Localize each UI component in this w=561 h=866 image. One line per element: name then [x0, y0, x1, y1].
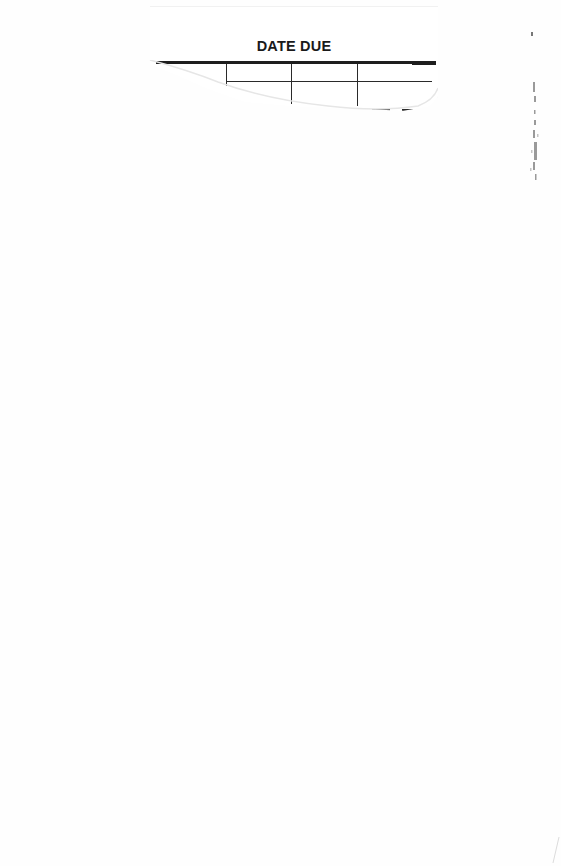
slip-header-rule-end: [412, 62, 436, 65]
slip-title: DATE DUE: [150, 38, 438, 54]
date-due-slip: DATE DUE: [150, 6, 438, 115]
slip-column-divider-2: [291, 64, 292, 104]
margin-dot: [531, 32, 533, 36]
slip-column-divider-1: [226, 64, 227, 86]
scanned-page: DATE DUE: [0, 0, 561, 866]
margin-handwriting-marks: [528, 70, 542, 190]
slip-header-rule: [156, 61, 436, 64]
slip-column-divider-3: [357, 64, 358, 106]
corner-crease-mark: [550, 835, 560, 865]
slip-dash-mark-1: [372, 109, 390, 111]
slip-row-rule: [227, 81, 432, 82]
slip-dash-mark-2: [402, 109, 416, 111]
